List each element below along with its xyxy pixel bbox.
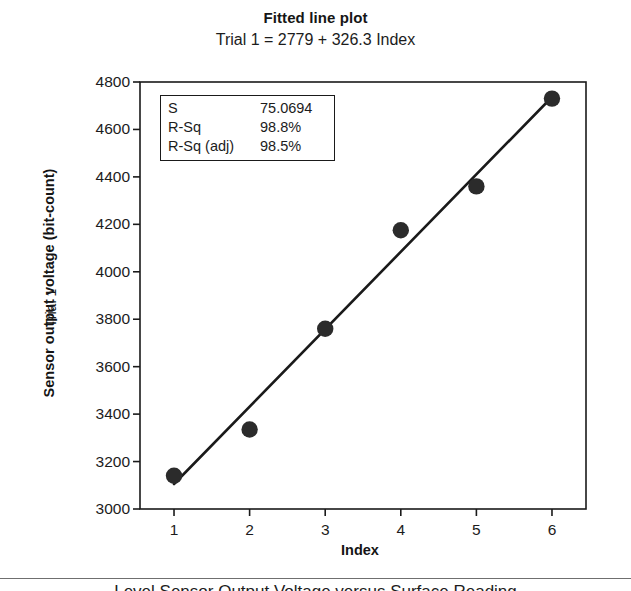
stats-label-s: S — [168, 99, 260, 118]
stats-value-s: 75.0694 — [260, 99, 326, 118]
statistics-box: S 75.0694 R-Sq 98.8% R-Sq (adj) 98.5% — [160, 95, 335, 161]
x-axis-ticks — [174, 509, 552, 516]
stats-value-rsq: 98.8% — [260, 118, 326, 137]
caption-divider — [0, 578, 631, 579]
fitted-line-plot-figure: Fitted line plot Trial 1 = 2779 + 326.3 … — [0, 0, 631, 591]
stats-row: S 75.0694 — [168, 99, 326, 118]
stats-value-rsq-adj: 98.5% — [260, 137, 326, 156]
y-axis-ticks — [133, 82, 140, 509]
stats-row: R-Sq (adj) 98.5% — [168, 137, 326, 156]
stats-row: R-Sq 98.8% — [168, 118, 326, 137]
data-point-marker — [166, 468, 182, 484]
data-point-marker — [393, 222, 409, 238]
data-point-marker — [241, 421, 257, 437]
stats-label-rsq-adj: R-Sq (adj) — [168, 137, 260, 156]
stats-label-rsq: R-Sq — [168, 118, 260, 137]
data-point-marker — [544, 90, 560, 106]
data-point-marker — [468, 178, 484, 194]
plot-area — [0, 0, 631, 591]
bottom-caption: Level Sensor Output Voltage versus Surfa… — [0, 582, 631, 591]
data-point-marker — [317, 321, 333, 337]
